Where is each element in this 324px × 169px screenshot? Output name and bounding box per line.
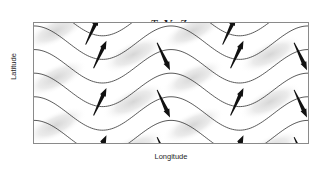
plot-area	[33, 22, 309, 144]
y-axis-label: Latitude	[9, 32, 18, 102]
figure-panel: T, V, Z Latitude Longitude	[0, 0, 324, 169]
contour-wind-plot	[34, 23, 308, 143]
x-axis-label: Longitude	[33, 152, 309, 161]
